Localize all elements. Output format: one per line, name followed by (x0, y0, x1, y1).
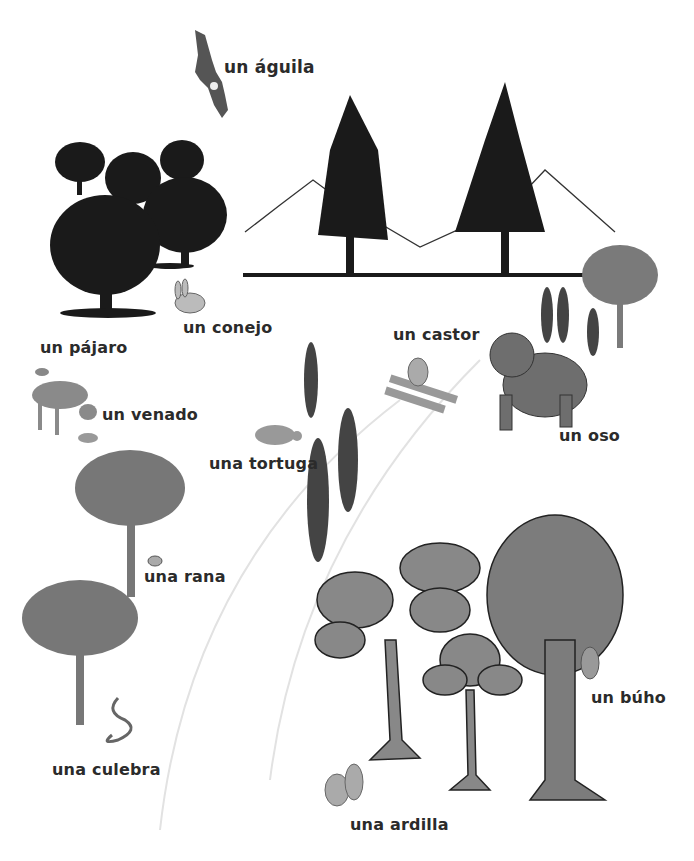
squirrel-icon (325, 764, 363, 806)
frog-icon (148, 556, 162, 566)
snake-icon (107, 698, 131, 742)
label-pajaro: un pájaro (40, 338, 128, 357)
label-rana: una rana (144, 567, 226, 586)
turtle-icon (255, 425, 302, 445)
cartoon-tree-middle (423, 634, 522, 790)
pine-trees (243, 82, 583, 277)
label-aguila: un águila (224, 57, 315, 77)
bird-icon (35, 368, 49, 376)
label-tortuga: una tortuga (209, 454, 318, 473)
label-castor: un castor (393, 325, 480, 344)
silhouette-trees (50, 140, 227, 318)
label-culebra: una culebra (52, 760, 161, 779)
deer-icon (32, 381, 98, 443)
bear-icon (490, 333, 587, 430)
label-oso: un oso (559, 426, 620, 445)
gray-tree-left-lower (22, 580, 138, 725)
label-ardilla: una ardilla (350, 815, 449, 834)
rabbit-icon (175, 279, 205, 313)
label-buho: un búho (591, 688, 666, 707)
owl-icon (581, 647, 599, 679)
label-venado: un venado (102, 405, 198, 424)
label-conejo: un conejo (183, 318, 272, 337)
cartoon-tree-right (487, 515, 623, 800)
mountain-outline (245, 170, 615, 247)
beaver-icon (384, 358, 458, 413)
